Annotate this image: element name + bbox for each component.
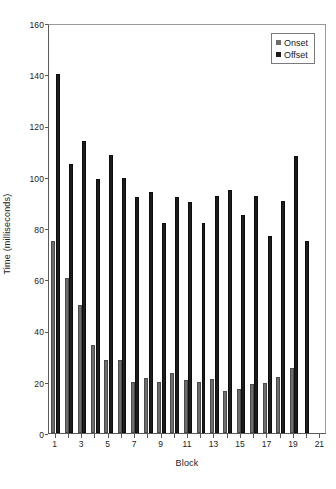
x-tick-mark xyxy=(68,434,69,438)
x-tick-mark xyxy=(121,434,122,438)
bar-group xyxy=(248,25,261,433)
bar-group xyxy=(128,25,141,433)
legend-label-offset: Offset xyxy=(284,50,308,60)
bar-group xyxy=(274,25,287,433)
x-tick-mark xyxy=(293,434,294,438)
x-tick-label: 19 xyxy=(288,440,297,449)
x-tick-minor xyxy=(273,434,286,456)
bar-onset xyxy=(118,360,122,433)
x-tick-mark xyxy=(240,434,241,438)
bar-onset xyxy=(144,378,148,433)
x-tick: 21 xyxy=(313,434,326,456)
bar-group xyxy=(195,25,208,433)
bar-offset xyxy=(149,192,153,433)
y-tick-label: 0 xyxy=(39,430,44,439)
bar-offset xyxy=(215,196,219,433)
x-tick: 17 xyxy=(260,434,273,456)
x-tick: 15 xyxy=(233,434,246,456)
x-tick-label: 7 xyxy=(132,440,137,449)
bar-onset xyxy=(51,241,55,433)
bar-offset xyxy=(175,197,179,433)
y-tick-label: 60 xyxy=(34,277,44,286)
x-tick-label: 13 xyxy=(209,440,218,449)
y-tick-label: 20 xyxy=(34,379,44,388)
x-tick-mark xyxy=(81,434,82,438)
bar-offset xyxy=(122,178,126,433)
y-tick-label: 160 xyxy=(30,20,44,29)
y-tick-label: 120 xyxy=(30,123,44,132)
x-tick-label: 1 xyxy=(52,440,57,449)
bar-offset xyxy=(254,196,258,433)
x-tick-label: 3 xyxy=(79,440,84,449)
bar-offset xyxy=(82,141,86,433)
x-tick-minor xyxy=(61,434,74,456)
bar-onset xyxy=(263,383,267,433)
bar-offset xyxy=(56,74,60,433)
bar-onset xyxy=(65,278,69,433)
bar-offset xyxy=(69,164,73,433)
bar-offset xyxy=(162,223,166,433)
x-tick-mark xyxy=(174,434,175,438)
bar-onset xyxy=(131,382,135,433)
x-tick: 1 xyxy=(48,434,61,456)
x-tick-minor xyxy=(141,434,154,456)
x-tick-minor xyxy=(194,434,207,456)
x-tick-mark xyxy=(134,434,135,438)
bar-onset xyxy=(276,377,280,433)
bar-group xyxy=(261,25,274,433)
figure: 020406080100120140160 Time (milliseconds… xyxy=(0,0,336,489)
y-axis-title: Time (milliseconds) xyxy=(2,134,12,334)
x-tick-label: 21 xyxy=(315,440,324,449)
offset-swatch-icon xyxy=(276,52,281,57)
bar-group xyxy=(314,25,327,433)
x-tick-mark xyxy=(161,434,162,438)
bar-container xyxy=(49,25,325,433)
x-tick-mark xyxy=(280,434,281,438)
bar-offset xyxy=(241,215,245,433)
y-axis: 020406080100120140160 Time (milliseconds… xyxy=(0,24,48,434)
x-axis-title: Block xyxy=(48,458,326,468)
bar-offset xyxy=(96,179,100,433)
bar-offset xyxy=(281,201,285,433)
x-tick-mark xyxy=(266,434,267,438)
x-tick-mark xyxy=(200,434,201,438)
x-tick: 19 xyxy=(286,434,299,456)
bar-offset xyxy=(268,236,272,433)
bar-onset xyxy=(104,360,108,433)
legend-item-onset: Onset xyxy=(276,37,308,48)
x-tick-minor xyxy=(167,434,180,456)
bar-group xyxy=(102,25,115,433)
x-tick: 7 xyxy=(127,434,140,456)
plot-area: Onset Offset xyxy=(48,24,326,434)
bar-offset xyxy=(294,156,298,433)
bar-group xyxy=(181,25,194,433)
x-tick-minor xyxy=(220,434,233,456)
x-tick-mark xyxy=(55,434,56,438)
x-tick-mark xyxy=(306,434,307,438)
bar-group xyxy=(115,25,128,433)
x-tick-mark xyxy=(227,434,228,438)
bar-onset xyxy=(157,382,161,433)
bar-group xyxy=(49,25,62,433)
bar-onset xyxy=(91,345,95,433)
legend-label-onset: Onset xyxy=(284,38,308,48)
y-tick-label: 80 xyxy=(34,225,44,234)
bar-offset xyxy=(202,223,206,433)
x-tick-label: 11 xyxy=(183,440,192,449)
bar-group xyxy=(142,25,155,433)
bar-group xyxy=(301,25,314,433)
bar-group xyxy=(168,25,181,433)
legend-item-offset: Offset xyxy=(276,49,308,60)
x-tick-minor xyxy=(247,434,260,456)
x-tick-mark xyxy=(108,434,109,438)
y-tick-label: 100 xyxy=(30,174,44,183)
bar-onset xyxy=(170,373,174,433)
bar-offset xyxy=(305,241,309,433)
x-tick-minor xyxy=(114,434,127,456)
bar-onset xyxy=(184,380,188,433)
x-tick-mark xyxy=(213,434,214,438)
x-tick-minor xyxy=(300,434,313,456)
x-tick-label: 5 xyxy=(105,440,110,449)
bar-group xyxy=(75,25,88,433)
onset-swatch-icon xyxy=(276,40,281,45)
